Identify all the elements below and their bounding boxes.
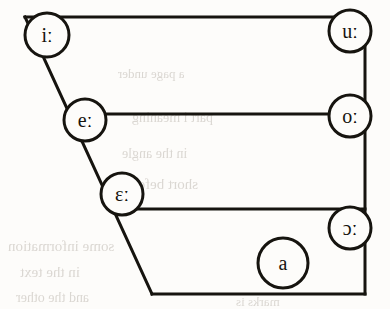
quadrilateral-left-edge	[25, 17, 152, 294]
vowel-symbol-i-long: iː	[41, 24, 52, 46]
vowel-node-u-long[interactable]: uː	[329, 10, 371, 52]
vowel-symbol-epsilon-long: ɛː	[115, 183, 129, 205]
vowel-node-i-long[interactable]: iː	[25, 13, 69, 57]
vowel-node-open-o-long[interactable]: ɔː	[329, 207, 371, 249]
vowel-node-e-long[interactable]: eː	[64, 99, 106, 141]
vowel-symbol-open-o-long: ɔː	[343, 217, 357, 239]
vowel-symbol-a-open: a	[279, 252, 288, 274]
vowel-node-epsilon-long[interactable]: ɛː	[101, 173, 143, 215]
vowel-symbol-e-long: eː	[78, 109, 92, 131]
vowel-symbol-u-long: uː	[342, 20, 358, 42]
vowel-node-o-long[interactable]: oː	[329, 95, 371, 137]
vowel-symbol-o-long: oː	[342, 105, 358, 127]
vowel-node-a-open[interactable]: a	[258, 238, 308, 288]
vowel-chart-figure: a page underpart i meaningin the anglesh…	[0, 0, 390, 309]
quadrilateral-outline-group	[25, 17, 365, 294]
vowel-quadrilateral-svg: iːuːeːoːɛːɔːa	[0, 0, 390, 309]
vowel-node-group: iːuːeːoːɛːɔːa	[25, 10, 371, 288]
